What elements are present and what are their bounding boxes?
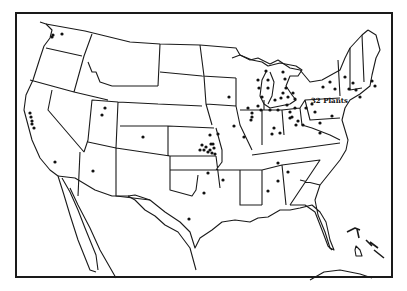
plant-dot	[370, 79, 373, 82]
plant-dot	[296, 119, 299, 122]
plant-dot	[266, 78, 269, 81]
plant-dot	[328, 80, 331, 83]
plant-dot	[276, 179, 279, 182]
us-map: 32 Plants	[0, 0, 407, 291]
plant-dot	[278, 131, 281, 134]
baja	[62, 178, 116, 278]
plant-dot	[288, 110, 291, 113]
plant-dot	[211, 142, 214, 145]
plant-dot	[276, 108, 279, 111]
bahamas	[347, 228, 384, 258]
plant-dot	[279, 96, 282, 99]
plant-dot	[28, 111, 31, 114]
plant-dot	[276, 161, 279, 164]
plant-dot	[260, 95, 263, 98]
plant-dot	[286, 170, 289, 173]
plant-dot	[206, 171, 209, 174]
plant-dot	[313, 110, 316, 113]
plant-dot	[288, 116, 291, 119]
plant-dot	[291, 91, 294, 94]
plant-dot	[283, 77, 286, 80]
plant-dot	[250, 111, 253, 114]
plant-dot	[204, 145, 207, 148]
plant-dot	[256, 104, 259, 107]
plant-dot	[343, 75, 346, 78]
plant-dot	[206, 150, 209, 153]
plant-dot	[250, 115, 253, 118]
plant-dot	[60, 32, 63, 35]
plant-dot	[286, 95, 289, 98]
northern-border	[46, 24, 368, 82]
plant-dot	[257, 86, 260, 89]
plant-dot	[91, 169, 94, 172]
plant-dot	[293, 97, 296, 100]
plant-dot	[256, 78, 259, 81]
plant-dot	[208, 133, 211, 136]
plant-dot	[358, 95, 361, 98]
plant-dot	[187, 217, 190, 220]
plant-dot	[318, 121, 321, 124]
plant-dot	[301, 123, 304, 126]
plant-dot	[266, 189, 269, 192]
plant-dot	[103, 106, 106, 109]
plant-dot	[232, 124, 235, 127]
plant-dot	[266, 86, 269, 89]
plant-dot	[213, 152, 216, 155]
east-coast	[128, 30, 380, 250]
cuba-coast	[310, 270, 372, 280]
plant-dot	[246, 106, 249, 109]
plant-dot	[270, 132, 273, 135]
plant-count-label: 32 Plants	[311, 96, 348, 105]
plant-dot	[268, 108, 271, 111]
plant-dot	[285, 103, 288, 106]
plant-dot	[53, 160, 56, 163]
plant-dot	[347, 87, 350, 90]
plant-dot	[284, 86, 287, 89]
plant-dot	[198, 148, 201, 151]
plant-dot	[318, 131, 321, 134]
plant-dot	[373, 84, 376, 87]
plant-dot	[227, 95, 230, 98]
plant-dot	[281, 91, 284, 94]
plant-dot	[294, 123, 297, 126]
plant-dot	[30, 122, 33, 125]
plant-dot	[242, 135, 245, 138]
plant-dot	[50, 35, 53, 38]
plant-dot	[141, 135, 144, 138]
plant-dot	[330, 114, 333, 117]
plant-dot	[264, 69, 267, 72]
plant-dot	[210, 151, 213, 154]
florida	[290, 205, 332, 250]
plant-dot	[272, 126, 275, 129]
cuba-island	[355, 246, 362, 256]
plant-dot	[29, 115, 32, 118]
plant-dot	[221, 178, 224, 181]
plant-dot	[212, 146, 215, 149]
plant-dot	[32, 126, 35, 129]
plant-dot	[249, 118, 252, 121]
plant-dot	[281, 70, 284, 73]
plant-dot	[200, 143, 203, 146]
plant-dot	[273, 98, 276, 101]
plant-dot	[333, 87, 336, 90]
plant-dot	[293, 106, 296, 109]
plant-dot	[100, 113, 103, 116]
plant-dot	[351, 81, 354, 84]
plant-dot	[304, 106, 307, 109]
plant-dot	[30, 119, 33, 122]
plant-dot	[259, 108, 262, 111]
plant-dot	[202, 191, 205, 194]
plant-dot	[321, 85, 324, 88]
plant-dot	[202, 148, 205, 151]
plant-dot	[216, 132, 219, 135]
plant-dot	[354, 88, 357, 91]
